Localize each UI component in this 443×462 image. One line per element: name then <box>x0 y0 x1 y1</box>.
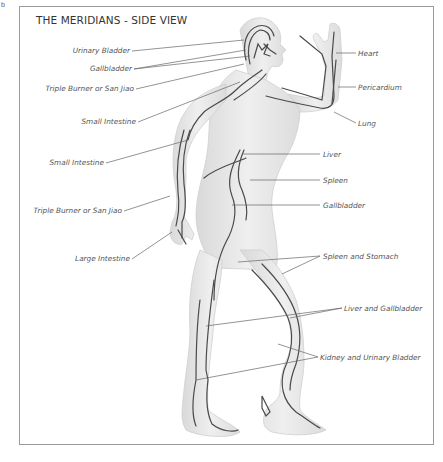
label-kidney-and-urinary-bladder: Kidney and Urinary Bladder <box>320 353 421 362</box>
label-triple-burner-head: Triple Burner or San Jiao <box>46 84 134 93</box>
label-triple-burner-arm: Triple Burner or San Jiao <box>34 206 122 215</box>
label-gallbladder-head: Gallbladder <box>90 64 132 73</box>
label-spleen-and-stomach: Spleen and Stomach <box>323 252 398 261</box>
label-large-intestine: Large Intestine <box>75 254 130 263</box>
label-gallbladder-torso: Gallbladder <box>323 201 365 210</box>
label-lung: Lung <box>358 119 376 128</box>
label-pericardium: Pericardium <box>358 83 402 92</box>
label-small-intestine-shoulder: Small Intestine <box>81 117 136 126</box>
label-heart: Heart <box>358 49 378 58</box>
label-liver-and-gallbladder: Liver and Gallbladder <box>344 304 422 313</box>
label-spleen: Spleen <box>323 176 348 185</box>
human-figure-illustration <box>0 0 443 462</box>
label-liver: Liver <box>323 150 341 159</box>
label-urinary-bladder: Urinary Bladder <box>73 46 130 55</box>
label-small-intestine-arm: Small Intestine <box>49 158 104 167</box>
